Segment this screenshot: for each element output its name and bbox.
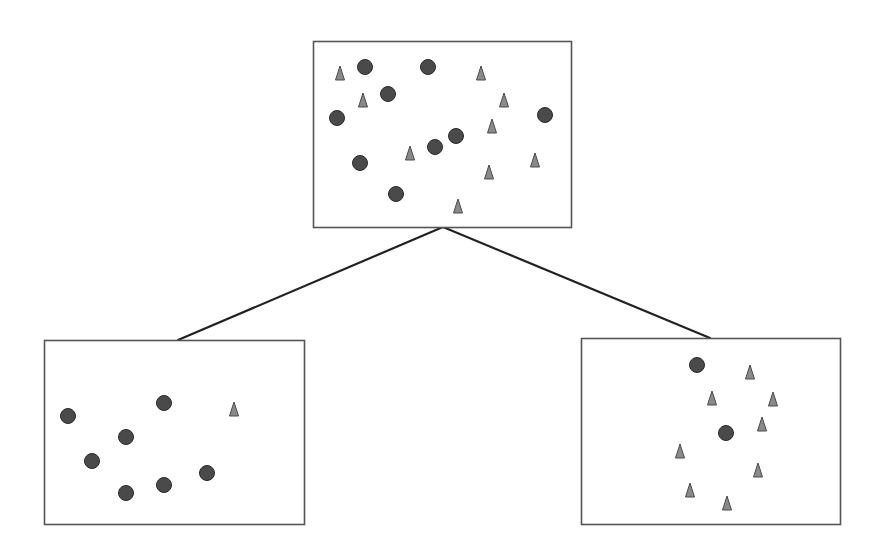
circle-icon <box>358 60 373 75</box>
circle-icon <box>690 358 705 373</box>
circle-icon <box>119 430 134 445</box>
node-box <box>314 42 572 228</box>
node-parent <box>314 42 572 228</box>
circle-icon <box>381 87 396 102</box>
circle-icon <box>389 187 404 202</box>
circle-icon <box>538 108 553 123</box>
circle-icon <box>157 478 172 493</box>
circle-icon <box>449 129 464 144</box>
node-right-child <box>582 339 841 525</box>
circle-icon <box>421 60 436 75</box>
node-box <box>45 341 305 525</box>
circle-icon <box>157 396 172 411</box>
circle-icon <box>200 466 215 481</box>
circle-icon <box>61 409 76 424</box>
circle-icon <box>119 486 134 501</box>
circle-icon <box>353 156 368 171</box>
edges-group <box>178 227 710 340</box>
circle-icon <box>85 454 100 469</box>
edge-parent-to-right-child <box>443 227 710 338</box>
circle-icon <box>719 426 734 441</box>
circle-icon <box>428 140 443 155</box>
tree-diagram <box>0 0 883 558</box>
edge-parent-to-left-child <box>178 227 443 340</box>
circle-icon <box>330 111 345 126</box>
nodes-group <box>45 42 841 525</box>
node-left-child <box>45 341 305 525</box>
node-box <box>582 339 841 525</box>
